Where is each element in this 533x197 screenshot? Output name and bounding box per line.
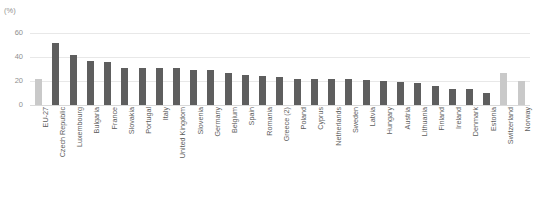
bar-switzerland [500, 73, 507, 105]
category-slot: Sweden [340, 107, 357, 195]
category-slot: Belgium [220, 107, 237, 195]
bar-slot [478, 33, 495, 105]
bar-slot [185, 33, 202, 105]
bar-bulgaria [87, 61, 94, 105]
y-axis-tick-0: 0 [1, 101, 23, 109]
bar-poland [294, 79, 301, 105]
category-slot: Netherlands [323, 107, 340, 195]
bar-slot [513, 33, 530, 105]
bar-eu-27 [35, 79, 42, 105]
category-slot: Italy [151, 107, 168, 195]
bar-slovakia [121, 68, 128, 105]
bar-france [104, 62, 111, 105]
bar-slot [375, 33, 392, 105]
category-slot: EU-27 [30, 107, 47, 195]
bar-slot [254, 33, 271, 105]
bar-slot [357, 33, 374, 105]
bar-ireland [449, 89, 456, 105]
bar-estonia [483, 93, 490, 105]
bar-slot [409, 33, 426, 105]
category-slot: United Kingdom [168, 107, 185, 195]
bar-slot [426, 33, 443, 105]
bar-slot [47, 33, 64, 105]
category-slot: Lithuania [409, 107, 426, 195]
bar-latvia [363, 80, 370, 105]
bar-denmark [466, 89, 473, 105]
category-slot: Czech Republic [47, 107, 64, 195]
bar-slot [133, 33, 150, 105]
bar-slot [340, 33, 357, 105]
bar-germany [207, 70, 214, 105]
category-slot: Switzerland [495, 107, 512, 195]
category-slot: Poland [289, 107, 306, 195]
bar-norway [518, 81, 525, 105]
bar-finland [432, 86, 439, 105]
bar-slot [220, 33, 237, 105]
bar-slot [202, 33, 219, 105]
category-slot: Slovenia [185, 107, 202, 195]
bar-slot [392, 33, 409, 105]
bar-chart: (%) 0204060 EU-27Czech RepublicLuxembour… [0, 0, 533, 197]
category-slot: Luxembourg [64, 107, 81, 195]
y-axis-tick-60: 60 [1, 29, 23, 37]
bar-luxembourg [70, 55, 77, 105]
bar-greece-2 [276, 77, 283, 105]
bar-sweden [345, 79, 352, 105]
category-slot: Spain [237, 107, 254, 195]
category-slot: Finland [426, 107, 443, 195]
category-label-norway: Norway [525, 107, 532, 131]
bar-united-kingdom [173, 68, 180, 105]
category-slot: Hungary [375, 107, 392, 195]
bar-slot [64, 33, 81, 105]
bar-slot [30, 33, 47, 105]
y-axis-tick-40: 40 [1, 53, 23, 61]
category-slot: Germany [202, 107, 219, 195]
category-slot: Bulgaria [82, 107, 99, 195]
bar-slot [444, 33, 461, 105]
bar-slot [289, 33, 306, 105]
category-slot: Norway [513, 107, 530, 195]
category-axis-labels: EU-27Czech RepublicLuxembourgBulgariaFra… [30, 107, 530, 195]
bar-cyprus [311, 79, 318, 105]
bar-netherlands [328, 79, 335, 105]
category-slot: Romania [254, 107, 271, 195]
plot-area: 0204060 [30, 33, 530, 105]
gridline-0 [30, 105, 530, 106]
bar-slot [461, 33, 478, 105]
bars-group [30, 33, 530, 105]
bar-romania [259, 76, 266, 105]
bar-czech-republic [52, 43, 59, 105]
bar-spain [242, 75, 249, 105]
bar-slot [82, 33, 99, 105]
category-slot: Cyprus [306, 107, 323, 195]
bar-lithuania [414, 83, 421, 105]
bar-slot [168, 33, 185, 105]
bar-slot [99, 33, 116, 105]
category-slot: Portugal [133, 107, 150, 195]
bar-slot [323, 33, 340, 105]
category-slot: Denmark [461, 107, 478, 195]
category-slot: Latvia [357, 107, 374, 195]
bar-slot [237, 33, 254, 105]
bar-slot [306, 33, 323, 105]
category-slot: Greece (2) [271, 107, 288, 195]
bar-slot [271, 33, 288, 105]
category-slot: Ireland [444, 107, 461, 195]
bar-slot [116, 33, 133, 105]
category-slot: Estonia [478, 107, 495, 195]
y-axis-tick-20: 20 [1, 77, 23, 85]
category-slot: Slovakia [116, 107, 133, 195]
y-axis-unit-label: (%) [4, 6, 16, 15]
category-slot: Austria [392, 107, 409, 195]
bar-belgium [225, 73, 232, 105]
bar-slot [495, 33, 512, 105]
bar-slot [151, 33, 168, 105]
category-slot: France [99, 107, 116, 195]
bar-austria [397, 82, 404, 105]
bar-portugal [139, 68, 146, 105]
bar-hungary [380, 81, 387, 105]
bar-italy [156, 68, 163, 105]
bar-slovenia [190, 70, 197, 105]
